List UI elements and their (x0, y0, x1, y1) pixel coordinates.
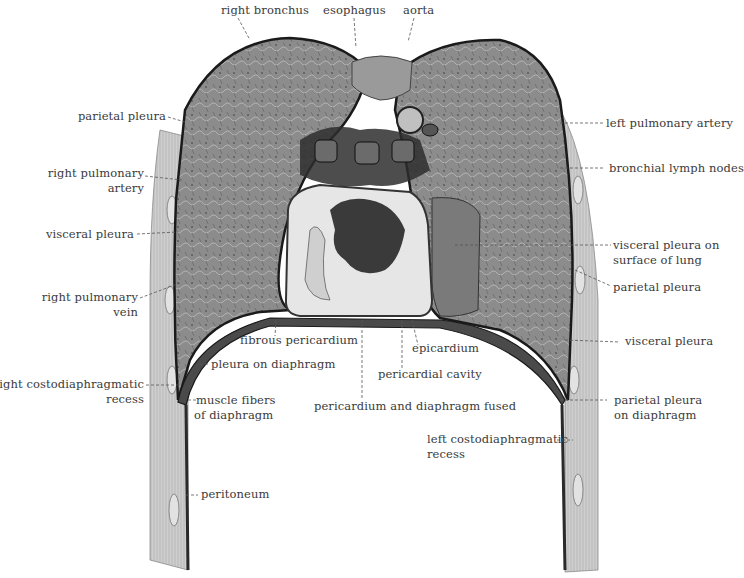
label-visceral-pleura-left: visceral pleura (46, 227, 134, 242)
label-esophagus: esophagus (323, 3, 386, 18)
label-right-bronchus: right bronchus (221, 3, 309, 18)
label-right-costodiaphragmatic-recess-line2: recess (106, 392, 144, 407)
label-right-pulmonary-vein-line2: vein (113, 305, 138, 320)
label-parietal-pleura-on-diaphragm-line1: parietal pleura (614, 393, 702, 408)
label-visceral-pleura-on-surface-line1: visceral pleura on (613, 238, 719, 253)
label-muscle-fibers-line1: muscle fibers (196, 393, 276, 408)
label-right-pulmonary-artery-line2: artery (108, 181, 144, 196)
label-pericardium-and-diaphragm-fused: pericardium and diaphragm fused (314, 399, 516, 414)
label-peritoneum: peritoneum (201, 487, 269, 502)
label-fibrous-pericardium: fibrous pericardium (240, 333, 358, 348)
label-pleura-on-diaphragm: pleura on diaphragm (211, 357, 335, 372)
label-left-pulmonary-artery: left pulmonary artery (606, 116, 733, 131)
label-right-pulmonary-vein-line1: right pulmonary (42, 290, 138, 305)
label-right-costodiaphragmatic-recess-line1: right costodiaphragmatic (0, 377, 144, 392)
label-aorta: aorta (403, 3, 434, 18)
label-right-pulmonary-artery-line1: right pulmonary (48, 166, 144, 181)
label-bronchial-lymph-nodes: bronchial lymph nodes (609, 161, 744, 176)
label-parietal-pleura-on-diaphragm-line2: on diaphragm (614, 408, 696, 423)
label-visceral-pleura-on-surface-line2: surface of lung (613, 253, 702, 268)
heart (286, 185, 480, 316)
label-visceral-pleura-right: visceral pleura (625, 334, 713, 349)
label-pericardial-cavity: pericardial cavity (378, 367, 482, 382)
label-left-costodiaphragmatic-recess-line2: recess (427, 447, 465, 462)
label-epicardium: epicardium (412, 341, 479, 356)
aorta-vessel (397, 107, 423, 133)
label-parietal-pleura-right: parietal pleura (613, 280, 701, 295)
label-left-costodiaphragmatic-recess-line1: left costodiaphragmatic (427, 432, 568, 447)
label-muscle-fibers-line2: of diaphragm (194, 408, 273, 423)
label-parietal-pleura-left: parietal pleura (78, 109, 166, 124)
